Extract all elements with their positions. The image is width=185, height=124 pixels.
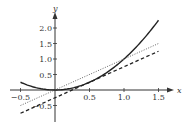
x-axis-arrow-icon [167, 88, 174, 93]
x-tick-label: 1.5 [152, 93, 165, 102]
function-plot: −0.50.51.01.5−0.50.51.01.52.0 x y [0, 0, 185, 124]
y-tick-label: 1.5 [39, 40, 52, 49]
y-tick-label: 1.0 [39, 55, 52, 64]
y-tick-label: 0.5 [39, 71, 52, 80]
x-tick-label: 0.5 [83, 93, 96, 102]
ticks: −0.50.51.01.5−0.50.51.01.52.0 [11, 24, 165, 111]
y-tick-label: 2.0 [39, 24, 52, 33]
x-tick-label: 1.0 [118, 93, 131, 102]
y-axis-label: y [52, 4, 58, 13]
x-tick-label: −0.5 [11, 93, 30, 102]
x-axis-label: x [177, 86, 182, 95]
y-axis-arrow-icon [53, 12, 58, 19]
